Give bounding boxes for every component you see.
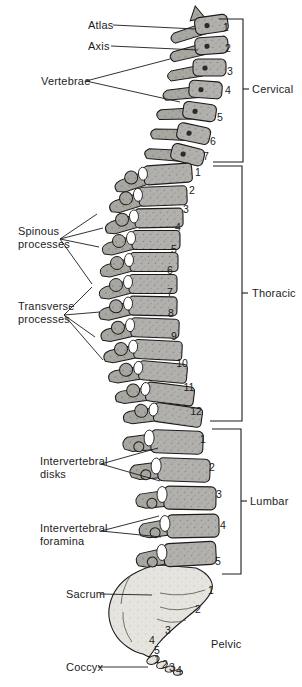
vertebra-number-cervical-6: 6	[210, 135, 216, 147]
vertebra-number-lumbar-3: 3	[216, 488, 222, 500]
vertebra-number-coccygeal-2: 2	[162, 658, 168, 670]
label-axis: Axis	[88, 40, 110, 53]
vertebra-number-sacral-1: 1	[208, 584, 214, 596]
vertebra-c5	[156, 97, 217, 127]
vertebra-number-thoracic-6: 6	[167, 264, 173, 276]
label-intervertebral-disks: Intervertebral disks	[40, 455, 108, 480]
region-label-thoracic: Thoracic	[252, 287, 296, 300]
vertebra-l5	[135, 541, 216, 568]
vertebra-number-thoracic-7: 7	[167, 286, 173, 298]
vertebra-number-thoracic-1: 1	[195, 166, 201, 178]
vertebra-number-thoracic-11: 11	[184, 381, 195, 393]
vertebra-c3	[168, 59, 227, 81]
vertebra-l2	[130, 457, 211, 483]
vertebra-number-cervical-2: 2	[225, 42, 231, 54]
vertebra-number-sacral-3: 3	[165, 624, 171, 636]
label-atlas: Atlas	[88, 19, 113, 32]
vertebra-number-thoracic-4: 4	[175, 221, 181, 233]
vertebra-number-coccygeal-4: 4	[176, 664, 182, 676]
vertebra-number-thoracic-10: 10	[176, 357, 188, 369]
region-label-cervical: Cervical	[252, 83, 293, 96]
vertebra-number-thoracic-9: 9	[171, 330, 177, 342]
vertebra-number-cervical-1: 1	[223, 21, 229, 33]
label-intervertebral-foramina: Intervertebral foramina	[40, 522, 108, 547]
label-coccyx: Coccyx	[66, 661, 103, 674]
vertebra-number-thoracic-8: 8	[168, 307, 174, 319]
vertebra-t6	[99, 275, 177, 300]
vertebra-number-cervical-3: 3	[227, 65, 233, 77]
label-transverse-processes: Transverse processes	[18, 300, 75, 325]
vertebra-number-cervical-7: 7	[203, 150, 209, 162]
label-sacrum: Sacrum	[66, 588, 105, 601]
label-vertebrae: Vertebrae	[41, 75, 91, 88]
vertebra-number-coccygeal-3: 3	[169, 661, 175, 673]
vertebra-number-lumbar-2: 2	[209, 461, 215, 473]
region-label-lumbar: Lumbar	[250, 495, 289, 508]
vertebra-number-lumbar-1: 1	[200, 433, 206, 445]
vertebra-l3	[136, 486, 216, 510]
vertebra-number-cervical-4: 4	[225, 84, 231, 96]
vertebra-number-sacral-2: 2	[195, 603, 201, 615]
label-spinous-processes: Spinous processes	[18, 225, 70, 250]
vertebra-l1	[123, 429, 204, 455]
vertebra-number-thoracic-3: 3	[183, 203, 189, 215]
vertebra-number-coccygeal-1: 1	[154, 653, 160, 665]
vertebra-t4	[102, 231, 180, 256]
spine-illustration	[0, 0, 302, 687]
vertebra-number-lumbar-5: 5	[215, 555, 221, 567]
vertebra-number-thoracic-5: 5	[171, 243, 177, 255]
vertebrae-layer	[99, 2, 230, 568]
vertebra-number-cervical-5: 5	[217, 111, 223, 123]
spine-figure: Atlas Axis Vertebrae Spinous processes T…	[0, 0, 302, 687]
region-label-pelvic: Pelvic	[211, 638, 242, 651]
vertebra-number-lumbar-4: 4	[220, 519, 226, 531]
vertebra-number-thoracic-2: 2	[189, 184, 195, 196]
vertebra-number-thoracic-12: 12	[190, 405, 202, 417]
thoracic-bracket	[210, 166, 242, 421]
